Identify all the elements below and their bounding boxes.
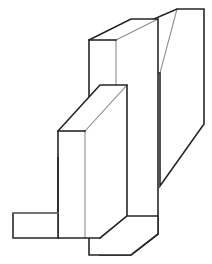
rib-body-fill	[58, 85, 127, 238]
isometric-bracket-drawing	[0, 0, 212, 264]
drawing-canvas	[0, 0, 212, 264]
foot-body-fill	[13, 157, 58, 238]
foot-group	[13, 157, 58, 238]
rib-group	[58, 85, 127, 238]
